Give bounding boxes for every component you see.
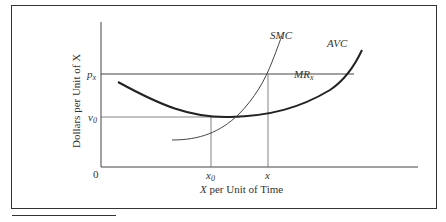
footnote-rule: [12, 215, 116, 216]
smc-curve: [172, 36, 282, 140]
origin-label: 0: [93, 168, 99, 180]
cost-curves-diagram: Dollars per Unit of X px v0 0 x0 x x per…: [0, 0, 446, 222]
avc-curve: [118, 50, 362, 117]
y-axis-label: Dollars per Unit of X: [70, 54, 82, 148]
px-label: px: [86, 68, 97, 82]
x-label: x: [264, 169, 270, 181]
avc-label: AVC: [326, 37, 348, 49]
smc-label: SMC: [270, 29, 293, 41]
x0-label: x0: [205, 169, 215, 183]
mr-label: MRx: [293, 68, 314, 82]
v0-label: v0: [88, 111, 97, 125]
x-axis-label: x per Unit of Time: [199, 183, 283, 195]
